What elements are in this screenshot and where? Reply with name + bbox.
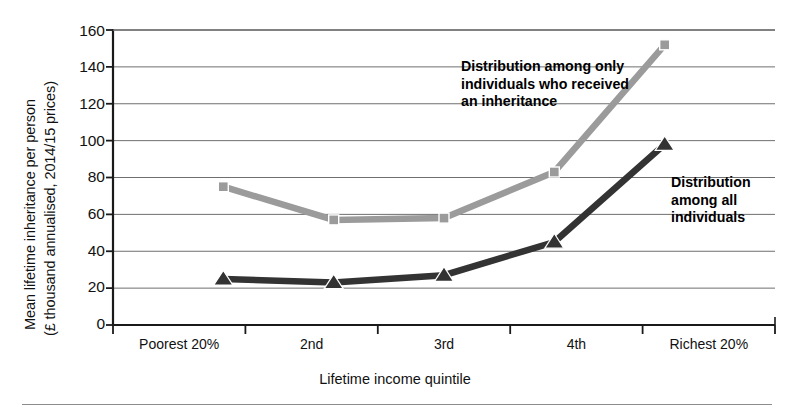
series-marker: [439, 213, 449, 223]
x-axis-title: Lifetime income quintile: [0, 371, 790, 387]
x-axis-ticks: [113, 325, 775, 334]
bottom-divider: [22, 404, 772, 405]
series-marker: [655, 136, 674, 151]
series-marker: [218, 182, 228, 192]
series-marker: [329, 215, 339, 225]
x-tick-label-2: 3rd: [434, 336, 454, 352]
x-tick-label-4: Richest 20%: [670, 336, 749, 352]
x-tick-label-1: 2nd: [300, 336, 323, 352]
series-marker: [660, 40, 670, 50]
x-tick-label-3: 4th: [567, 336, 586, 352]
gridlines: [113, 30, 775, 288]
series-all-individuals: [214, 136, 674, 289]
chart-figure: Mean lifetime inheritance per person (£ …: [0, 0, 790, 414]
series-marker: [549, 167, 559, 177]
x-tick-label-0: Poorest 20%: [139, 336, 219, 352]
annotation-all-individuals: Distribution among all individuals: [671, 174, 751, 227]
annotation-received-inheritance: Distribution among only individuals who …: [461, 58, 629, 111]
